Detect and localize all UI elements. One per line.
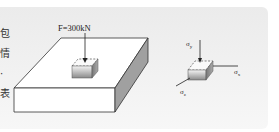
sigma-z-label: σz [180,88,187,97]
slab-front-face [14,88,115,112]
sigma-x-label: σx [234,68,241,77]
sigma-y-label: σy [186,40,193,49]
diagram-canvas: F=300kN σy σx σz [0,0,279,132]
force-label: F=300kN [58,23,91,33]
